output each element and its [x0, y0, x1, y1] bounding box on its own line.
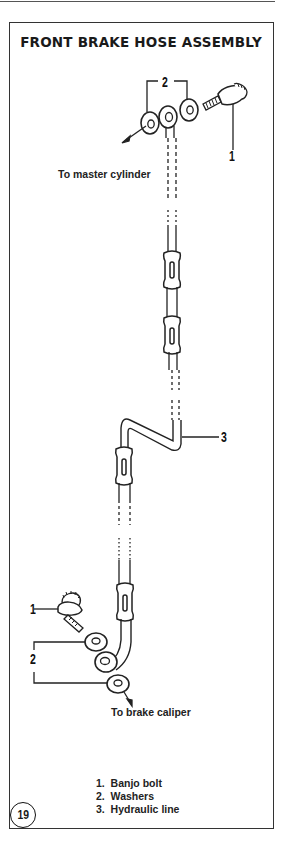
- hose-sleeve-lower-icon: [116, 447, 133, 485]
- master-cylinder-arrow-icon: [122, 126, 146, 143]
- callout-bottom-washers: 2: [30, 651, 36, 667]
- callout-bottom-banjo-bolt: 1: [30, 601, 36, 617]
- top-banjo-bolt-icon: [203, 83, 247, 150]
- legend-item: 2. Washers: [96, 790, 179, 803]
- legend-item: 3. Hydraulic line: [96, 803, 179, 816]
- legend-item: 1. Banjo bolt: [96, 777, 179, 790]
- hose-sleeve-upper-icon: [164, 251, 181, 289]
- figure-number-badge: 19: [10, 802, 36, 828]
- top-washer-right-icon: [180, 99, 198, 121]
- brake-caliper-arrow-icon: [124, 692, 132, 706]
- bottom-washer-lower-icon: [107, 675, 129, 693]
- callout-top-banjo-bolt: 1: [229, 148, 235, 164]
- upper-hose-line: [168, 138, 176, 200]
- bottom-banjo-bolt-icon: [34, 591, 83, 632]
- parts-legend: 1. Banjo bolt 2. Washers 3. Hydraulic li…: [96, 777, 179, 816]
- label-to-brake-caliper: To brake caliper: [111, 706, 191, 718]
- bottom-banjo-fitting-icon: [95, 652, 117, 672]
- bottom-washer-upper-icon: [85, 633, 107, 651]
- hose-sleeve-middle-icon: [164, 316, 181, 354]
- top-washer-left-icon: [141, 112, 159, 134]
- hose-sleeve-bottom-icon: [117, 583, 134, 621]
- callout-hydraulic-line: 3: [221, 429, 227, 445]
- hydraulic-line-bend: [121, 419, 219, 451]
- label-to-master-cylinder: To master cylinder: [58, 168, 151, 180]
- callout-top-washers: 2: [162, 74, 168, 90]
- top-banjo-fitting-icon: [159, 106, 177, 138]
